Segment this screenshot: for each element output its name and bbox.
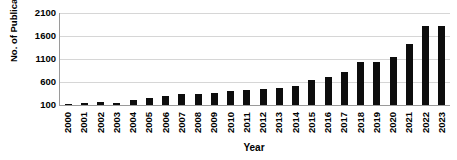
bar — [81, 103, 88, 105]
x-tick-label: 2018 — [354, 107, 365, 139]
x-slot: 2014 — [287, 106, 303, 140]
bar — [341, 72, 348, 105]
x-axis-title: Year — [59, 142, 449, 153]
x-slot: 2002 — [92, 106, 108, 140]
bar — [390, 57, 397, 105]
x-tick-label: 2008 — [192, 107, 203, 139]
x-tick-label: 2010 — [224, 107, 235, 139]
bar — [292, 86, 299, 105]
bar — [211, 93, 218, 105]
bar — [162, 96, 169, 105]
bar-slot — [401, 13, 417, 105]
x-slot: 2021 — [400, 106, 416, 140]
x-tick-label: 2001 — [78, 107, 89, 139]
x-slot: 2019 — [368, 106, 384, 140]
bar-slot — [418, 13, 434, 105]
bar-slot — [76, 13, 92, 105]
bar-slot — [434, 13, 450, 105]
bar-slot — [190, 13, 206, 105]
x-slot: 2015 — [303, 106, 319, 140]
y-tick-label: 2100 — [16, 8, 56, 18]
y-tick-label: 600 — [16, 77, 56, 87]
bar-slot — [109, 13, 125, 105]
x-axis-tick-labels: 2000200120022003200420052006200720082009… — [59, 106, 449, 140]
bar-slot — [206, 13, 222, 105]
bar-slot — [239, 13, 255, 105]
x-tick-label: 2006 — [159, 107, 170, 139]
bar-slot — [158, 13, 174, 105]
x-slot: 2010 — [222, 106, 238, 140]
bar — [146, 98, 153, 105]
bar — [195, 94, 202, 105]
x-slot: 2004 — [124, 106, 140, 140]
y-tick-label: 1600 — [16, 31, 56, 41]
y-axis-tick-labels: 210016001100600100 — [16, 8, 56, 110]
x-tick-label: 2021 — [403, 107, 414, 139]
bar-slot — [60, 13, 76, 105]
x-tick-label: 2016 — [322, 107, 333, 139]
bar-series — [60, 13, 450, 105]
bar-slot — [304, 13, 320, 105]
x-tick-label: 2005 — [143, 107, 154, 139]
bar — [373, 62, 380, 105]
x-tick-label: 2022 — [419, 107, 430, 139]
x-tick-label: 2015 — [305, 107, 316, 139]
y-tick-label: 1100 — [16, 54, 56, 64]
x-tick-label: 2000 — [62, 107, 73, 139]
bar — [243, 90, 250, 105]
x-tick-label: 2017 — [338, 107, 349, 139]
bar-slot — [271, 13, 287, 105]
x-slot: 2013 — [270, 106, 286, 140]
bar-slot — [174, 13, 190, 105]
y-tick-label: 100 — [16, 100, 56, 110]
x-tick-label: 2023 — [435, 107, 446, 139]
x-slot: 2017 — [335, 106, 351, 140]
x-tick-label: 2013 — [273, 107, 284, 139]
bar — [178, 94, 185, 105]
bar-slot — [125, 13, 141, 105]
x-slot: 2022 — [417, 106, 433, 140]
x-slot: 2005 — [140, 106, 156, 140]
x-slot: 2000 — [59, 106, 75, 140]
bar — [308, 80, 315, 105]
x-tick-label: 2020 — [387, 107, 398, 139]
x-slot: 2023 — [433, 106, 449, 140]
x-slot: 2016 — [319, 106, 335, 140]
bar-slot — [385, 13, 401, 105]
x-tick-label: 2007 — [175, 107, 186, 139]
x-tick-label: 2012 — [257, 107, 268, 139]
bar-slot — [223, 13, 239, 105]
bar-slot — [288, 13, 304, 105]
x-slot: 2006 — [157, 106, 173, 140]
bar — [113, 103, 120, 105]
bar — [438, 26, 445, 105]
bar — [65, 104, 72, 105]
bar-slot — [320, 13, 336, 105]
bar-slot — [336, 13, 352, 105]
bar-slot — [141, 13, 157, 105]
bar — [357, 62, 364, 105]
bar — [422, 26, 429, 105]
bar — [260, 89, 267, 105]
bar — [406, 44, 413, 105]
plot-area — [59, 13, 450, 106]
bar-slot — [369, 13, 385, 105]
x-slot: 2008 — [189, 106, 205, 140]
x-tick-label: 2009 — [208, 107, 219, 139]
bar — [130, 100, 137, 105]
publications-by-year-bar-chart: No. of Publications 210016001100600100 2… — [0, 0, 457, 160]
x-tick-label: 2003 — [110, 107, 121, 139]
bar-slot — [255, 13, 271, 105]
x-slot: 2012 — [254, 106, 270, 140]
bar-slot — [93, 13, 109, 105]
bar — [97, 102, 104, 105]
x-slot: 2011 — [238, 106, 254, 140]
bar — [227, 91, 234, 105]
bar-slot — [353, 13, 369, 105]
x-slot: 2018 — [352, 106, 368, 140]
bar — [276, 88, 283, 105]
bar — [325, 77, 332, 105]
x-slot: 2003 — [108, 106, 124, 140]
x-slot: 2009 — [205, 106, 221, 140]
x-slot: 2020 — [384, 106, 400, 140]
